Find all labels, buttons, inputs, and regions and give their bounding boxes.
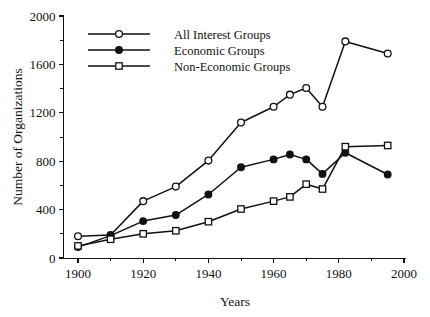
x-tick-label-1960: 1960 [261, 266, 287, 281]
y-axis-title: Number of Organizations [10, 68, 25, 206]
data-point [319, 171, 326, 178]
series-non-economic-groups [75, 142, 391, 249]
legend-label: Non-Economic Groups [174, 60, 290, 74]
data-point [75, 243, 81, 249]
data-point [75, 233, 82, 240]
data-point [173, 228, 179, 234]
x-axis-title: Years [220, 294, 250, 309]
chart-container: 0400800120016002000 19001920194019601980… [0, 0, 430, 317]
data-point [270, 198, 276, 204]
data-point [173, 212, 180, 219]
data-point [319, 103, 326, 110]
data-point [238, 119, 245, 126]
chart-legend: All Interest GroupsEconomic GroupsNon-Ec… [88, 28, 290, 74]
data-point [287, 151, 294, 158]
legend-marker-filled-circle [116, 47, 123, 54]
y-tick-label-0: 0 [49, 251, 56, 266]
x-tick-label-1940: 1940 [195, 266, 221, 281]
legend-label: Economic Groups [174, 44, 265, 58]
legend-item-1[interactable]: Economic Groups [88, 44, 265, 58]
y-tick-label-1600: 1600 [30, 57, 56, 72]
data-point [107, 236, 113, 242]
x-tick-label-1900: 1900 [65, 266, 91, 281]
data-point [205, 191, 212, 198]
series-path [78, 153, 388, 247]
series-path [78, 145, 388, 245]
y-tick-label-400: 400 [36, 202, 56, 217]
data-point [303, 181, 309, 187]
x-tick-label-2000: 2000 [391, 266, 417, 281]
y-tick-label-1200: 1200 [30, 105, 56, 120]
data-point [205, 157, 212, 164]
series-economic-groups [75, 149, 391, 250]
data-point [172, 183, 179, 190]
data-point [303, 156, 310, 163]
data-point [205, 219, 211, 225]
data-point [238, 206, 244, 212]
data-point [270, 156, 277, 163]
data-point [140, 231, 146, 237]
x-tick-label-1980: 1980 [326, 266, 352, 281]
legend-item-2[interactable]: Non-Economic Groups [88, 60, 290, 74]
x-axis-tick-labels: 190019201940196019802000 [65, 266, 417, 281]
data-point [270, 103, 277, 110]
line-chart: 0400800120016002000 19001920194019601980… [0, 0, 430, 317]
y-axis-tick-labels: 0400800120016002000 [30, 9, 56, 266]
data-point [303, 85, 310, 92]
data-point [287, 91, 294, 98]
data-point [384, 50, 391, 57]
data-point [342, 38, 349, 45]
data-point [238, 164, 245, 171]
data-point [384, 171, 391, 178]
legend-item-0[interactable]: All Interest Groups [88, 28, 271, 42]
x-tick-label-1920: 1920 [130, 266, 156, 281]
legend-marker-open-circle [116, 31, 123, 38]
y-tick-label-800: 800 [36, 154, 56, 169]
data-point [385, 142, 391, 148]
data-point [140, 198, 147, 205]
data-point [342, 143, 348, 149]
data-point [140, 218, 147, 225]
data-point [287, 194, 293, 200]
legend-marker-open-square [116, 63, 122, 69]
y-tick-label-2000: 2000 [30, 9, 56, 24]
data-point [319, 186, 325, 192]
legend-label: All Interest Groups [174, 28, 271, 42]
